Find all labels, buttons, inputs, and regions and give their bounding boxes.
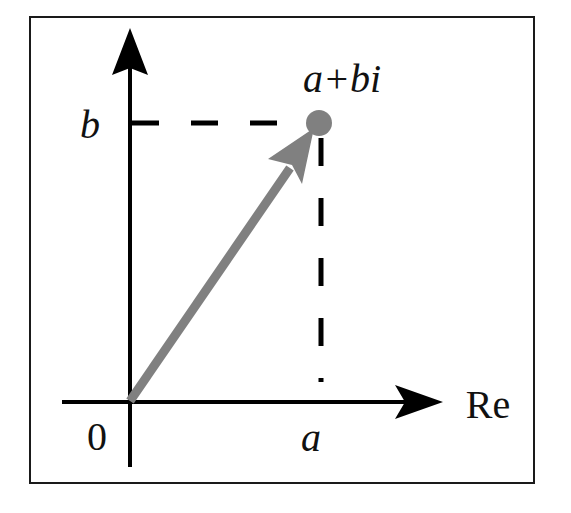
origin-label: 0 (87, 414, 107, 459)
real-tick-label: a (301, 415, 321, 460)
point-a-plus-bi (306, 110, 332, 136)
imag-tick-label: b (80, 102, 100, 147)
complex-plane-diagram: a+bi b a 0 Re (0, 0, 571, 513)
imaginary-axis-arrowhead-icon (112, 28, 148, 75)
vector-arrowhead-icon (268, 128, 314, 184)
vector-shaft (130, 168, 290, 401)
point-label: a+bi (303, 56, 381, 101)
real-axis-label: Re (466, 382, 510, 427)
